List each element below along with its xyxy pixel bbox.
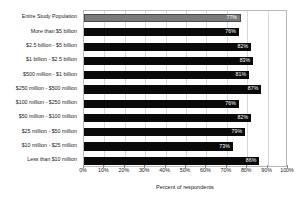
x-tick-label: 60% xyxy=(200,168,211,173)
x-tick-mark xyxy=(226,165,227,168)
bar-value-label: 76% xyxy=(225,101,236,106)
x-tick-mark xyxy=(287,165,288,168)
category-axis-labels: Entire Study PopulationMore than $5 bill… xyxy=(0,10,80,167)
bar-row: 76% xyxy=(84,100,286,108)
x-tick-mark xyxy=(267,165,268,168)
bar-row: 76% xyxy=(84,28,286,36)
bar-value-label: 82% xyxy=(238,44,249,49)
x-tick-label: 100% xyxy=(280,168,294,173)
plot-area: 77%76%82%83%81%87%76%82%79%73%86% xyxy=(83,10,287,167)
category-label: Entire Study Population xyxy=(22,14,77,19)
bar-value-label: 87% xyxy=(248,87,259,92)
bar-row: 81% xyxy=(84,71,286,79)
x-tick-label: 50% xyxy=(180,168,191,173)
bar-row: 82% xyxy=(84,43,286,51)
x-axis-title: Percent of respondents xyxy=(83,185,287,191)
x-tick-mark xyxy=(83,165,84,168)
category-label: $25 million - $50 million xyxy=(22,129,77,134)
category-label: $50 million - $100 million xyxy=(19,114,77,119)
category-label: $2.5 billion - $5 billion xyxy=(26,43,77,48)
bar-chart: Entire Study PopulationMore than $5 bill… xyxy=(0,0,306,202)
bar: 86% xyxy=(84,157,259,165)
bar: 83% xyxy=(84,57,253,65)
bar-row: 83% xyxy=(84,57,286,65)
bar-row: 86% xyxy=(84,157,286,165)
bar-row: 77% xyxy=(84,14,286,22)
bar-row: 82% xyxy=(84,114,286,122)
bar-value-label: 82% xyxy=(238,115,249,120)
bar-row: 73% xyxy=(84,142,286,150)
bar-series: 77%76%82%83%81%87%76%82%79%73%86% xyxy=(84,11,286,166)
bar-value-label: 73% xyxy=(219,144,230,149)
x-tick-label: 20% xyxy=(118,168,129,173)
bar-value-label: 83% xyxy=(240,58,251,63)
x-tick-mark xyxy=(185,165,186,168)
x-tick-label: 70% xyxy=(220,168,231,173)
bar-value-label: 76% xyxy=(225,30,236,35)
bar: 87% xyxy=(84,85,261,93)
category-label: Less than $10 million xyxy=(27,157,77,162)
bar-value-label: 81% xyxy=(236,73,247,78)
bar-highlight: 77% xyxy=(84,14,241,22)
bar: 76% xyxy=(84,100,239,108)
x-tick-label: 10% xyxy=(98,168,109,173)
bar-row: 79% xyxy=(84,128,286,136)
x-tick-mark xyxy=(124,165,125,168)
category-label: $500 million - $1 billion xyxy=(23,72,77,77)
x-tick-mark xyxy=(246,165,247,168)
category-label: $100 million - $250 million xyxy=(16,100,77,105)
bar-value-label: 79% xyxy=(231,130,242,135)
bar: 82% xyxy=(84,114,251,122)
bar: 73% xyxy=(84,142,233,150)
category-label: $250 million - $500 million xyxy=(16,86,77,91)
x-tick-label: 30% xyxy=(139,168,150,173)
bar-value-label: 86% xyxy=(246,158,257,163)
bar: 81% xyxy=(84,71,249,79)
x-tick-mark xyxy=(144,165,145,168)
x-tick-mark xyxy=(205,165,206,168)
bar: 76% xyxy=(84,28,239,36)
x-tick-label: 90% xyxy=(261,168,272,173)
category-label: $1 billion - $2.5 billion xyxy=(26,57,77,62)
bar-value-label: 77% xyxy=(226,16,237,21)
x-tick-label: 40% xyxy=(159,168,170,173)
bar-row: 87% xyxy=(84,85,286,93)
category-label: More than $5 billion xyxy=(31,29,77,34)
x-tick-mark xyxy=(103,165,104,168)
x-tick-label: 80% xyxy=(241,168,252,173)
category-label: $10 million - $25 million xyxy=(22,143,77,148)
x-axis-ticks: 0%10%20%30%40%50%60%70%80%90%100% xyxy=(83,168,287,178)
x-tick-mark xyxy=(165,165,166,168)
x-tick-label: 0% xyxy=(79,168,87,173)
bar: 82% xyxy=(84,43,251,51)
bar: 79% xyxy=(84,128,245,136)
